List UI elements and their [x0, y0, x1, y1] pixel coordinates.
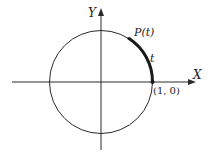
y-axis-label: Y [88, 6, 97, 20]
arc-t-label: t [150, 52, 155, 65]
point-p-label: P(t) [133, 26, 154, 39]
x-axis-label: X [192, 68, 202, 82]
arc-t [129, 39, 153, 83]
y-axis [98, 8, 104, 150]
unit-circle-diagram: Y X P(t) t (1, 0) [0, 0, 210, 157]
y-axis-arrow-icon [98, 8, 104, 16]
point-start-label: (1, 0) [153, 85, 180, 96]
point-p [127, 37, 130, 40]
point-start [151, 80, 155, 84]
